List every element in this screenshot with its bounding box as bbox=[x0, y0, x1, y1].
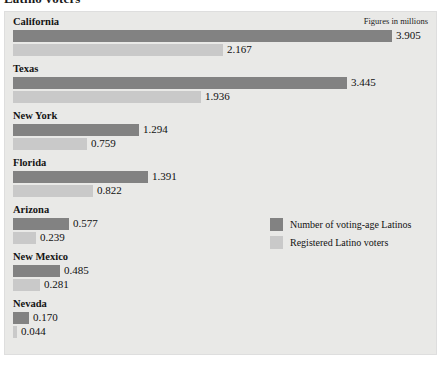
bar-row: 0.170 bbox=[13, 312, 433, 324]
bar-row: 0.759 bbox=[13, 138, 433, 150]
bar-value-label: 0.577 bbox=[73, 216, 98, 231]
bar-registered-latino-voters bbox=[13, 44, 223, 56]
chart-legend: Number of voting-age LatinosRegistered L… bbox=[270, 218, 411, 254]
bar-value-label: 3.905 bbox=[396, 28, 421, 43]
bar-row: 2.167 bbox=[13, 44, 433, 56]
bar-value-label: 0.170 bbox=[33, 310, 58, 325]
bar-row: 1.391 bbox=[13, 171, 433, 183]
bar-value-label: 1.391 bbox=[152, 169, 177, 184]
bar-number-of-voting-age-latinos bbox=[13, 265, 60, 277]
bar-number-of-voting-age-latinos bbox=[13, 30, 392, 42]
state-label: Florida bbox=[13, 157, 46, 168]
figures-unit-note: Figures in millions bbox=[364, 16, 428, 26]
bar-row: 1.936 bbox=[13, 91, 433, 103]
bar-value-label: 3.445 bbox=[351, 75, 376, 90]
page-title: Latino voters bbox=[4, 0, 81, 7]
bar-registered-latino-voters bbox=[13, 138, 87, 150]
bar-row: 3.905 bbox=[13, 30, 433, 42]
bar-row: 0.044 bbox=[13, 326, 433, 338]
legend-item-registered[interactable]: Registered Latino voters bbox=[270, 236, 411, 249]
bar-value-label: 0.239 bbox=[40, 230, 65, 245]
bar-value-label: 0.485 bbox=[64, 263, 89, 278]
bar-number-of-voting-age-latinos bbox=[13, 218, 69, 230]
bar-value-label: 0.044 bbox=[21, 324, 46, 339]
bar-number-of-voting-age-latinos bbox=[13, 77, 347, 89]
legend-swatch-icon bbox=[270, 218, 283, 231]
bar-registered-latino-voters bbox=[13, 91, 201, 103]
state-label: Arizona bbox=[13, 204, 49, 215]
state-label: Texas bbox=[13, 63, 38, 74]
bar-registered-latino-voters bbox=[13, 279, 40, 291]
bar-row: 0.822 bbox=[13, 185, 433, 197]
bar-value-label: 1.294 bbox=[143, 122, 168, 137]
legend-item-voting_age[interactable]: Number of voting-age Latinos bbox=[270, 218, 411, 231]
legend-swatch-icon bbox=[270, 236, 283, 249]
bar-row: 3.445 bbox=[13, 77, 433, 89]
bar-value-label: 1.936 bbox=[205, 89, 230, 104]
legend-label: Registered Latino voters bbox=[290, 237, 388, 248]
bar-row: 1.294 bbox=[13, 124, 433, 136]
chart-panel: Figures in millions California3.9052.167… bbox=[4, 11, 437, 355]
bar-registered-latino-voters bbox=[13, 232, 36, 244]
bar-value-label: 2.167 bbox=[227, 42, 252, 57]
bar-value-label: 0.759 bbox=[91, 136, 116, 151]
state-label: California bbox=[13, 16, 59, 27]
state-label: New York bbox=[13, 110, 57, 121]
bar-row: 0.485 bbox=[13, 265, 433, 277]
bar-row: 0.281 bbox=[13, 279, 433, 291]
bar-number-of-voting-age-latinos bbox=[13, 312, 29, 324]
state-label: Nevada bbox=[13, 298, 47, 309]
bar-value-label: 0.281 bbox=[44, 277, 69, 292]
bar-value-label: 0.822 bbox=[97, 183, 122, 198]
bar-registered-latino-voters bbox=[13, 185, 93, 197]
bar-number-of-voting-age-latinos bbox=[13, 171, 148, 183]
bar-registered-latino-voters bbox=[13, 326, 17, 338]
bar-number-of-voting-age-latinos bbox=[13, 124, 139, 136]
legend-label: Number of voting-age Latinos bbox=[290, 219, 411, 230]
state-label: New Mexico bbox=[13, 251, 68, 262]
